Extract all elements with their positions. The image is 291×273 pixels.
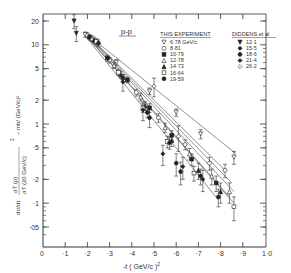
legend-entry: 14·73: [162, 63, 184, 69]
data-point: [117, 70, 121, 74]
y-axis-title-ratio-num: σT (p): [12, 177, 18, 193]
data-point: [152, 84, 156, 88]
data-point: [105, 56, 109, 60]
legend-marker: [162, 77, 166, 81]
data-point: [199, 174, 203, 178]
plot-frame: [43, 14, 266, 247]
legend-marker: [238, 46, 242, 50]
y-tick-label: ·2: [33, 176, 39, 183]
legend-entry: 12·78: [162, 57, 184, 63]
y-axis-title-power: 2: [9, 138, 15, 141]
legend-label: 19·59: [170, 76, 184, 82]
x-tick-label: ·5: [151, 250, 157, 257]
y-axis-title: dσ/dt σT (p) σT (20 GeV/c) 2 – mb/ (GeV/…: [9, 96, 27, 215]
legend-entry: 6·78 GeV/c: [162, 39, 198, 45]
y-tick-label: ·1: [33, 200, 39, 207]
data-point: [223, 168, 227, 172]
data-point: [181, 164, 185, 168]
legend-label: 12·1: [246, 39, 257, 45]
legend-label: 21·4: [246, 57, 257, 63]
data-point: [190, 157, 194, 161]
legend-marker: [162, 40, 166, 44]
x-tick-label: ·9: [240, 250, 246, 257]
y-tick-label: 20: [31, 18, 39, 25]
legend-entry: 10·79: [162, 51, 184, 57]
series: [83, 32, 236, 164]
data-point: [147, 89, 151, 93]
data-point: [227, 189, 231, 193]
x-tick-label: ·8: [218, 250, 224, 257]
data-point: [97, 41, 101, 45]
legend-marker: [162, 71, 166, 75]
data-point: [74, 31, 78, 35]
legend-entry: 21·4: [238, 57, 257, 63]
legend-entry: 26·2: [238, 63, 257, 69]
x-tick-label: ·6: [173, 250, 179, 257]
y-axis-title-ratio-den: σT (20 GeV/c): [21, 156, 27, 194]
legend-marker: [162, 53, 166, 57]
x-tick-label: 1·0: [262, 250, 272, 257]
data-point: [174, 110, 178, 114]
fit-line: [87, 35, 225, 171]
y-tick-label: 10: [31, 41, 39, 48]
y-axis-title-units: – mb/ (GeV/c)²: [15, 96, 21, 135]
data-point: [168, 141, 172, 145]
y-tick-label: 5: [35, 65, 39, 72]
y-axis-ticks: 2010521·5·2·1·05: [29, 18, 266, 235]
x-tick-label: 0: [40, 250, 44, 257]
data-point: [72, 19, 76, 23]
data-point: [232, 155, 236, 159]
legend-label: 15·5: [246, 45, 257, 51]
series: [72, 15, 78, 42]
legend-title: THIS EXPERIMENT: [160, 31, 211, 37]
data-point: [232, 205, 236, 209]
legend-label: 26·2: [246, 63, 257, 69]
data-point: [174, 161, 178, 165]
legend-entry: 12·1: [238, 39, 257, 45]
legend-label: 12·78: [170, 57, 184, 63]
legend: THIS EXPERIMENT6·78 GeV/c8·8110·7912·781…: [160, 31, 276, 82]
legend-entry: 18·6: [238, 51, 257, 57]
panel-label: p-p: [121, 27, 132, 36]
legend-marker: [162, 65, 166, 69]
data-point: [145, 110, 149, 114]
legend-marker: [162, 58, 166, 62]
legend-label: 16·64: [170, 70, 184, 76]
legend-label: 8·81: [170, 45, 181, 51]
data-point: [179, 170, 183, 174]
x-axis-title: -t ( GeV/c )2: [123, 261, 160, 271]
legend-title: DIDDENS et al: [232, 31, 269, 37]
chart: 0·1·2·3·4·5·6·7·8·91·0 2010521·5·2·1·05 …: [0, 0, 291, 273]
x-axis-ticks: 0·1·2·3·4·5·6·7·8·91·0: [40, 14, 272, 257]
data-point: [161, 152, 165, 156]
data-point: [183, 143, 187, 147]
legend-entry: 19·59: [162, 76, 184, 82]
x-tick-label: ·3: [107, 250, 113, 257]
legend-marker: [238, 53, 242, 57]
y-tick-label: 2: [35, 97, 39, 104]
y-axis-title-lhs: dσ/dt: [14, 201, 21, 215]
legend-entry: 16·64: [162, 70, 184, 76]
series: [147, 110, 182, 185]
y-tick-label: 1: [35, 121, 39, 128]
data-point: [134, 91, 138, 95]
legend-label: 10·79: [170, 51, 184, 57]
legend-label: 14·73: [170, 63, 184, 69]
fit-line: [87, 35, 236, 154]
data-point: [192, 171, 196, 175]
data-point: [125, 78, 129, 82]
legend-marker: [238, 65, 242, 69]
y-tick-label: ·5: [33, 144, 39, 151]
legend-label: 18·6: [246, 51, 257, 57]
legend-entry: 15·5: [238, 45, 257, 51]
legend-marker: [238, 40, 242, 44]
data-point: [216, 195, 220, 199]
legend-entry: 8·81: [162, 45, 181, 51]
legend-marker: [238, 58, 242, 62]
x-tick-label: ·7: [195, 250, 201, 257]
x-tick-label: ·1: [62, 250, 68, 257]
y-tick-label: ·05: [29, 224, 39, 231]
data-point: [214, 181, 218, 185]
x-tick-label: ·4: [129, 250, 135, 257]
data-point: [156, 116, 160, 120]
